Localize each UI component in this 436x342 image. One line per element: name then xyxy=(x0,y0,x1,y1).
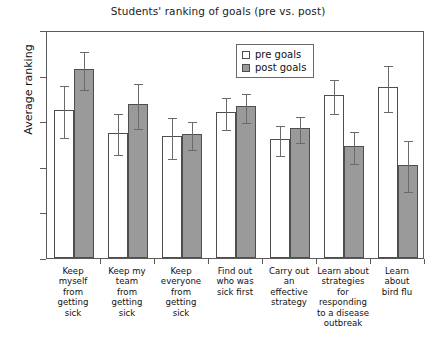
y-tick-mark xyxy=(40,259,46,260)
x-category-label-line: an xyxy=(262,276,316,286)
x-category-label-line: myself xyxy=(46,276,100,286)
error-bar xyxy=(64,86,65,138)
error-bar-cap xyxy=(114,114,123,115)
error-bar xyxy=(246,94,247,123)
x-category-label-line: who was xyxy=(208,276,262,286)
error-bar-cap xyxy=(276,156,285,157)
legend-label-post: post goals xyxy=(255,62,306,73)
x-category-label-line: Keep xyxy=(46,266,100,276)
x-category-label: Learnaboutbird flu xyxy=(370,266,424,297)
x-category-label-line: team xyxy=(100,276,154,286)
error-bar-cap xyxy=(350,164,359,165)
x-category-label-line: strategy xyxy=(262,297,316,307)
x-tick-mark xyxy=(316,259,317,264)
error-bar xyxy=(408,141,409,191)
x-category-label-line: sick xyxy=(154,308,208,318)
x-category-label: Keepmyselffromgettingsick xyxy=(46,266,100,318)
error-bar-cap xyxy=(60,86,69,87)
error-bar-cap xyxy=(168,159,177,160)
x-category-label-line: everyone xyxy=(154,276,208,286)
error-bar-cap xyxy=(222,130,231,131)
x-category-label-line: sick first xyxy=(208,287,262,297)
x-category-label-line: Learn xyxy=(370,266,424,276)
x-category-label-line: Learn about xyxy=(316,266,370,276)
bar-pre xyxy=(324,95,344,258)
error-bar-cap xyxy=(296,117,305,118)
x-category-label-line: effective xyxy=(262,287,316,297)
error-bar-cap xyxy=(330,114,339,115)
error-bar-cap xyxy=(384,112,393,113)
legend-swatch-post-icon xyxy=(242,64,250,72)
x-category-label-line: Find out xyxy=(208,266,262,276)
bar-post xyxy=(236,106,256,258)
x-category-label: Learn aboutstrategiesforrespondingto a d… xyxy=(316,266,370,328)
error-bar xyxy=(354,132,355,164)
error-bar-cap xyxy=(242,94,251,95)
y-axis-label: Average ranking xyxy=(22,15,35,165)
x-category-label: Find outwho wassick first xyxy=(208,266,262,297)
error-bar-cap xyxy=(404,192,413,193)
bar-pre xyxy=(216,112,236,258)
x-category-label-line: sick xyxy=(100,308,154,318)
x-category-label: Keepeveryonefromgettingsick xyxy=(154,266,208,318)
error-bar-cap xyxy=(60,138,69,139)
bar-post xyxy=(182,134,202,258)
x-category-label-line: getting xyxy=(46,297,100,307)
x-tick-mark xyxy=(154,259,155,264)
x-category-label-line: from xyxy=(46,287,100,297)
x-category-label-line: from xyxy=(154,287,208,297)
x-category-label: Carry outaneffectivestrategy xyxy=(262,266,316,308)
x-category-label-line: Keep my xyxy=(100,266,154,276)
error-bar-cap xyxy=(80,90,89,91)
error-bar xyxy=(226,98,227,130)
chart-container: Students' ranking of goals (pre vs. post… xyxy=(0,0,436,342)
error-bar-cap xyxy=(114,155,123,156)
x-category-label-line: getting xyxy=(100,297,154,307)
error-bar-cap xyxy=(404,141,413,142)
error-bar xyxy=(334,80,335,114)
chart-legend: pre goals post goals xyxy=(236,44,314,78)
error-bar-cap xyxy=(168,118,177,119)
error-bar xyxy=(118,114,119,155)
error-bar-cap xyxy=(222,98,231,99)
error-bar-cap xyxy=(384,66,393,67)
bar-post xyxy=(290,128,310,258)
x-category-label: Keep myteamfromgettingsick xyxy=(100,266,154,318)
x-category-label-line: about xyxy=(370,276,424,286)
error-bar-cap xyxy=(134,129,143,130)
error-bar-cap xyxy=(296,143,305,144)
error-bar-cap xyxy=(80,52,89,53)
x-tick-mark xyxy=(262,259,263,264)
error-bar-cap xyxy=(188,150,197,151)
legend-item-post-goals: post goals xyxy=(242,61,306,74)
error-bar-cap xyxy=(242,123,251,124)
x-category-label-line: getting xyxy=(154,297,208,307)
x-tick-mark xyxy=(208,259,209,264)
x-category-label-line: from xyxy=(100,287,154,297)
error-bar xyxy=(388,66,389,112)
x-category-label-line: Carry out xyxy=(262,266,316,276)
error-bar xyxy=(172,118,173,159)
error-bar-cap xyxy=(134,84,143,85)
x-category-label-line: sick xyxy=(46,308,100,318)
x-category-label-line: Keep xyxy=(154,266,208,276)
error-bar-cap xyxy=(276,126,285,127)
x-category-label-line: responding xyxy=(316,297,370,307)
x-tick-mark xyxy=(370,259,371,264)
error-bar xyxy=(300,117,301,143)
x-tick-mark xyxy=(424,259,425,264)
error-bar-cap xyxy=(350,132,359,133)
error-bar-cap xyxy=(330,80,339,81)
error-bar xyxy=(84,52,85,90)
legend-label-pre: pre goals xyxy=(255,49,301,60)
error-bar-cap xyxy=(188,122,197,123)
x-category-label-line: bird flu xyxy=(370,287,424,297)
x-tick-mark xyxy=(100,259,101,264)
plot-area xyxy=(46,31,424,259)
x-category-label-line: for xyxy=(316,287,370,297)
x-category-label-line: strategies xyxy=(316,276,370,286)
legend-swatch-pre-icon xyxy=(242,51,250,59)
bar-post xyxy=(74,69,94,258)
error-bar xyxy=(192,122,193,149)
error-bar xyxy=(280,126,281,156)
